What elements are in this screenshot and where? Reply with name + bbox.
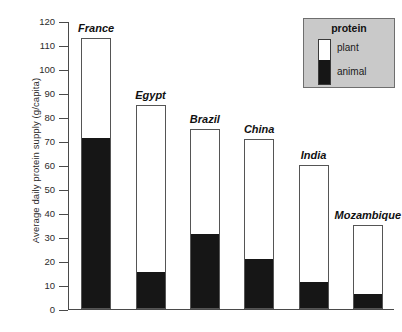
legend-label-plant: plant <box>337 42 359 53</box>
y-tick-mark <box>59 238 68 239</box>
y-axis-title: Average daily protein supply (g/capita) <box>30 21 41 301</box>
y-tick-label: 100 <box>39 64 55 75</box>
y-tick-label: 30 <box>44 232 55 243</box>
y-tick-label: 70 <box>44 136 55 147</box>
y-tick-mark <box>59 190 68 191</box>
bar-segment-animal[interactable] <box>191 234 219 308</box>
y-tick-label: 40 <box>44 208 55 219</box>
bar-label: France <box>78 22 114 34</box>
bar-group[interactable]: France <box>81 21 111 309</box>
bar-total[interactable] <box>190 129 220 309</box>
bar-group[interactable]: China <box>244 21 274 309</box>
bar-segment-animal[interactable] <box>245 259 273 308</box>
y-tick-label: 90 <box>44 88 55 99</box>
bar-group[interactable]: Egypt <box>136 21 166 309</box>
bar-total[interactable] <box>353 225 383 309</box>
bar-total[interactable] <box>299 165 329 309</box>
bar-segment-animal[interactable] <box>137 272 165 308</box>
bar-label: China <box>244 123 275 135</box>
bar-total[interactable] <box>244 139 274 309</box>
bar-label: India <box>301 149 327 161</box>
bar-label: Brazil <box>190 113 220 125</box>
y-tick-label: 20 <box>44 256 55 267</box>
bar-total[interactable] <box>81 38 111 309</box>
y-tick-mark <box>59 94 68 95</box>
y-tick-mark <box>59 262 68 263</box>
y-tick-label: 80 <box>44 112 55 123</box>
y-tick-mark <box>59 46 68 47</box>
bar-segment-animal[interactable] <box>300 282 328 308</box>
bar-total[interactable] <box>136 105 166 309</box>
bar-segment-animal[interactable] <box>82 138 110 308</box>
bar-label: Mozambique <box>335 209 402 221</box>
legend-label-animal: animal <box>337 66 366 77</box>
legend-title: protein <box>304 22 394 34</box>
y-tick-mark <box>59 310 68 311</box>
y-tick-label: 0 <box>50 304 55 315</box>
legend: protein plant animal <box>303 18 395 88</box>
y-tick-label: 110 <box>40 40 55 51</box>
protein-supply-bar-chart: Average daily protein supply (g/capita) … <box>0 0 402 332</box>
y-tick-mark <box>59 118 68 119</box>
y-tick-mark <box>59 286 68 287</box>
legend-swatch-animal <box>319 60 330 84</box>
y-tick-mark <box>59 70 68 71</box>
legend-swatch-plant <box>318 39 331 85</box>
y-tick-label: 60 <box>44 160 55 171</box>
y-tick-mark <box>59 166 68 167</box>
bar-group[interactable]: Brazil <box>190 21 220 309</box>
y-tick-mark <box>59 214 68 215</box>
bar-segment-animal[interactable] <box>354 294 382 308</box>
y-tick-label: 50 <box>44 184 55 195</box>
y-tick-mark <box>59 142 68 143</box>
y-tick-mark <box>59 22 68 23</box>
y-tick-label: 120 <box>39 16 55 27</box>
bar-label: Egypt <box>135 89 166 101</box>
y-tick-label: 10 <box>44 280 55 291</box>
